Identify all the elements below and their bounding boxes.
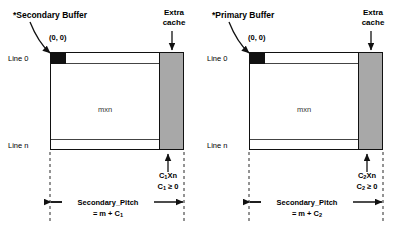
panel-secondary-buffer: *Secondary Buffer (0, 0) Line 0 Line n E… — [0, 0, 199, 233]
extra-cache-label: Extra cache — [350, 8, 396, 27]
pointer-arrow-to-origin — [229, 22, 249, 53]
line-last-label: Line n — [8, 141, 28, 150]
cache-size-value: C1Xn — [159, 171, 177, 180]
pitch-formula: = m + C2 — [251, 209, 363, 218]
extra-cache-label-line1: Extra — [164, 8, 184, 17]
line-last-label: Line n — [207, 141, 227, 150]
buffer-box: mxn — [50, 52, 184, 150]
extra-cache-column — [358, 53, 382, 149]
memory-buffer-diagram: *Secondary Buffer (0, 0) Line 0 Line n E… — [0, 0, 398, 233]
line-first-strip — [250, 53, 358, 64]
buffer-title: *Secondary Buffer — [13, 10, 87, 20]
line-first-label: Line 0 — [207, 54, 227, 63]
panel-primary-buffer: *Primary Buffer (0, 0) Line 0 Line n Ext… — [199, 0, 398, 233]
line-last-strip — [250, 139, 358, 149]
cache-size-constraint: C2 ≥ 0 — [356, 182, 377, 191]
origin-marker — [51, 53, 66, 64]
extra-cache-label-line2: cache — [362, 18, 385, 27]
origin-marker — [250, 53, 265, 64]
cache-size-constraint: C1 ≥ 0 — [157, 182, 178, 191]
extra-cache-column — [159, 53, 183, 149]
pitch-label: Secondary_Pitch — [261, 198, 353, 207]
origin-coordinate-label: (0, 0) — [248, 33, 266, 42]
line-last-strip — [51, 139, 159, 149]
cache-size-annotation: C2Xn C2 ≥ 0 — [339, 171, 395, 193]
pitch-label: Secondary_Pitch — [62, 198, 154, 207]
origin-coordinate-label: (0, 0) — [49, 33, 67, 42]
buffer-area-label: mxn — [250, 105, 358, 114]
line-first-strip — [51, 53, 159, 64]
buffer-title: *Primary Buffer — [212, 10, 274, 20]
cache-size-value: C2Xn — [358, 171, 376, 180]
extra-cache-label: Extra cache — [151, 8, 197, 27]
buffer-box: mxn — [249, 52, 383, 150]
pointer-arrow-to-origin — [30, 22, 50, 53]
extra-cache-label-line1: Extra — [363, 8, 383, 17]
buffer-area-label: mxn — [51, 105, 159, 114]
pitch-formula: = m + C1 — [52, 209, 164, 218]
extra-cache-label-line2: cache — [163, 18, 186, 27]
line-first-label: Line 0 — [8, 54, 28, 63]
cache-size-annotation: C1Xn C1 ≥ 0 — [140, 171, 196, 193]
